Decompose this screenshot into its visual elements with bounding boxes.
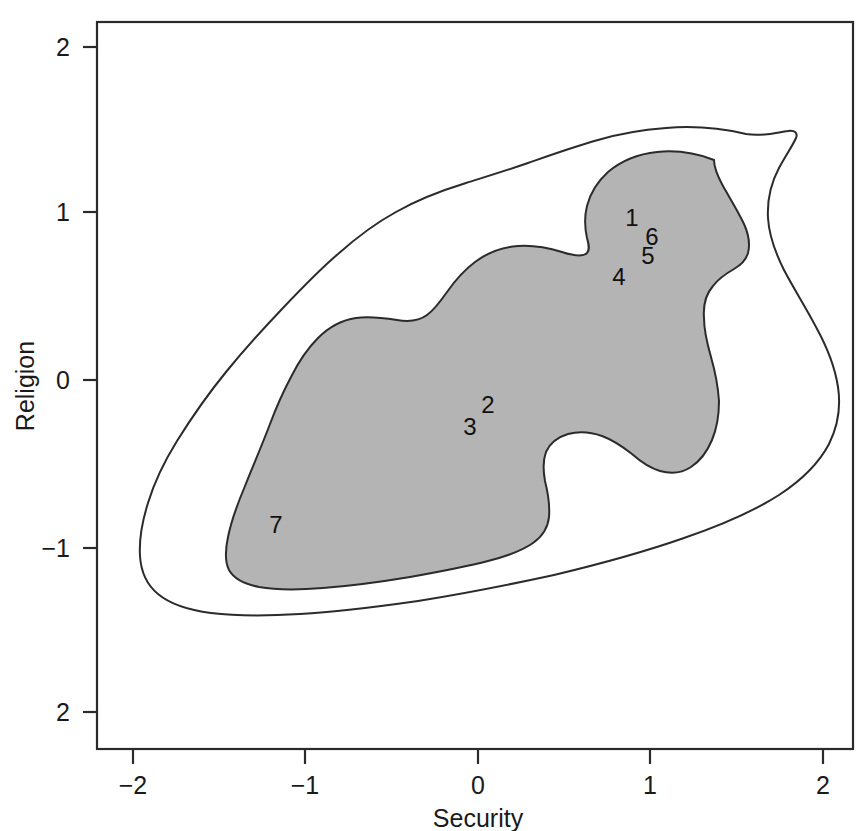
x-tick-label-4: 2 xyxy=(816,771,830,799)
y-axis-ticks xyxy=(83,47,97,712)
y-tick-label-4: 2 xyxy=(56,698,70,726)
point-label-6: 6 xyxy=(645,223,658,250)
x-tick-label-2: 0 xyxy=(471,771,485,799)
x-tick-label-0: −2 xyxy=(119,771,148,799)
y-axis-title: Religion xyxy=(11,341,39,431)
x-tick-label-1: −1 xyxy=(291,771,320,799)
y-tick-label-0: 2 xyxy=(56,33,70,61)
inner-contour-path xyxy=(226,151,749,589)
y-tick-label-3: −1 xyxy=(41,534,70,562)
point-label-4: 4 xyxy=(612,263,625,290)
x-axis-title: Security xyxy=(433,804,524,831)
x-tick-label-3: 1 xyxy=(643,771,657,799)
point-label-1: 1 xyxy=(625,204,638,231)
point-label-3: 3 xyxy=(463,413,476,440)
y-axis-tick-labels: 2 1 0 −1 2 xyxy=(41,33,70,726)
contour-plot-figure: 2 1 0 −1 2 −2 −1 0 1 2 Security Religion… xyxy=(0,0,867,831)
y-tick-label-2: 0 xyxy=(56,366,70,394)
x-axis-ticks xyxy=(133,749,823,764)
point-label-7: 7 xyxy=(269,511,282,538)
y-tick-label-1: 1 xyxy=(56,198,70,226)
x-axis-tick-labels: −2 −1 0 1 2 xyxy=(119,771,830,799)
point-label-2: 2 xyxy=(481,391,494,418)
plot-canvas: 2 1 0 −1 2 −2 −1 0 1 2 Security Religion… xyxy=(0,0,867,831)
